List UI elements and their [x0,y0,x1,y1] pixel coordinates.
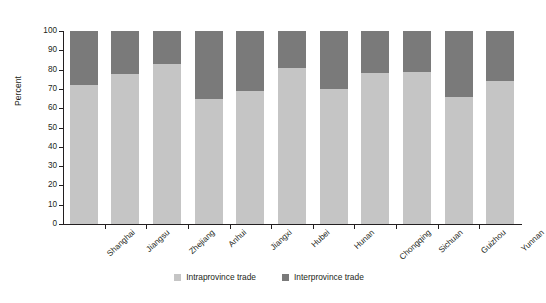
y-tick-label: 70 [35,83,57,94]
bar-segment-interprovince[interactable] [278,31,306,68]
bar-segment-intraprovince[interactable] [403,72,431,224]
legend-swatch-icon [282,274,289,281]
legend-label: Interprovince trade [294,272,364,282]
y-tick-label: 30 [35,160,57,171]
bar-segment-interprovince[interactable] [445,31,473,97]
bar-group[interactable] [361,31,389,224]
x-axis-label: Chongqing [398,228,433,262]
bar-segment-intraprovince[interactable] [195,99,223,224]
y-tick-label: 50 [35,122,57,133]
bar-segment-interprovince[interactable] [111,31,139,74]
legend-label: Intraprovince trade [186,272,256,282]
x-axis-tick [354,225,355,229]
x-axis-tick [105,225,106,229]
y-tick-label: 80 [35,64,57,75]
bar-group[interactable] [486,31,514,224]
y-tick-mark [59,128,63,129]
x-axis-tick [146,225,147,229]
x-axis-tick [230,225,231,229]
bar-segment-intraprovince[interactable] [70,85,98,224]
y-tick-label: 40 [35,141,57,152]
y-tick-mark [59,147,63,148]
bar-segment-intraprovince[interactable] [320,89,348,224]
bar-segment-intraprovince[interactable] [153,64,181,224]
bar-segment-interprovince[interactable] [153,31,181,64]
x-axis-tick [271,225,272,229]
bar-group[interactable] [278,31,306,224]
y-tick-label: 90 [35,44,57,55]
bar-segment-interprovince[interactable] [486,31,514,81]
y-tick-label: 100 [35,25,57,36]
x-axis-line [63,224,522,225]
bar-segment-interprovince[interactable] [195,31,223,99]
y-tick-mark [59,224,63,225]
bar-segment-intraprovince[interactable] [361,73,389,224]
bar-segment-intraprovince[interactable] [111,74,139,224]
y-tick-mark [59,50,63,51]
x-axis-tick [479,225,480,229]
plot-area: 0102030405060708090100 [63,31,521,224]
x-axis-tick [313,225,314,229]
bar-segment-interprovince[interactable] [361,31,389,73]
legend-item[interactable]: Interprovince trade [282,272,364,282]
x-axis-label: Hunan [352,228,376,251]
y-tick-mark [59,89,63,90]
y-tick-mark [59,70,63,71]
y-tick-mark [59,166,63,167]
y-tick-label: 0 [35,218,57,229]
bar-group[interactable] [70,31,98,224]
x-axis-tick [396,225,397,229]
bar-group[interactable] [320,31,348,224]
x-axis-label: Guizhou [479,228,507,255]
y-tick-label: 10 [35,199,57,210]
x-axis-label: Anhui [226,228,247,249]
bar-group[interactable] [236,31,264,224]
y-tick-label: 20 [35,179,57,190]
y-axis-title: Percent [13,51,23,131]
x-axis-label: Jiangxi [269,228,294,252]
y-tick-mark [59,31,63,32]
bar-group[interactable] [195,31,223,224]
bar-segment-interprovince[interactable] [70,31,98,85]
chart-legend: Intraprovince tradeInterprovince trade [0,272,538,282]
x-axis-label: Sichuan [437,228,465,255]
bar-segment-intraprovince[interactable] [278,68,306,224]
x-axis-label: Yunnan [520,228,546,254]
y-tick-mark [59,108,63,109]
bar-group[interactable] [111,31,139,224]
x-axis-label: Zhejiang [188,228,217,256]
bar-segment-interprovince[interactable] [403,31,431,72]
bar-segment-interprovince[interactable] [236,31,264,91]
x-axis-label: Jiangsu [145,228,172,254]
y-tick-mark [59,185,63,186]
x-axis-tick [438,225,439,229]
bar-group[interactable] [445,31,473,224]
bar-segment-intraprovince[interactable] [236,91,264,224]
y-tick-label: 60 [35,102,57,113]
legend-item[interactable]: Intraprovince trade [174,272,256,282]
bar-segment-intraprovince[interactable] [445,97,473,224]
bar-group[interactable] [403,31,431,224]
x-axis-tick [188,225,189,229]
y-tick-mark [59,205,63,206]
x-axis-label: Hubei [310,228,332,249]
bar-group[interactable] [153,31,181,224]
legend-swatch-icon [174,274,181,281]
bar-segment-intraprovince[interactable] [486,81,514,224]
x-axis-label: Shanghai [105,228,136,258]
bar-segment-interprovince[interactable] [320,31,348,89]
